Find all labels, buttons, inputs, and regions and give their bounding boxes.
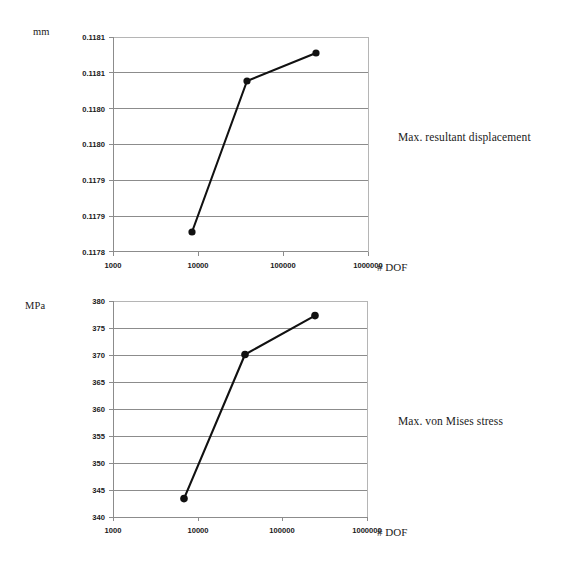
series-polyline [192, 53, 316, 232]
y-tick-label: 380 [92, 297, 105, 306]
x-tick-label: 100000 [270, 261, 295, 270]
x-tick-label: 100000 [269, 526, 294, 535]
y-tick-label: 345 [92, 486, 105, 495]
y-tickmarks-top [109, 37, 113, 252]
gridlines-top [113, 37, 368, 252]
series-max-von-mises-stress [180, 312, 319, 503]
plot-area-bottom: 380 375 370 365 360 355 350 345 340 1000… [0, 285, 577, 571]
chart-max-von-mises-stress: MPa [0, 285, 577, 571]
gridlines-bottom [113, 301, 367, 517]
y-tick-label: 375 [92, 324, 105, 333]
data-point [311, 312, 319, 320]
series-max-resultant-displacement [188, 49, 319, 235]
caption-max-resultant-displacement: Max. resultant displacement [398, 131, 531, 143]
x-tick-labels-top: 1000 10000 100000 1000000 [105, 261, 383, 270]
y-tickmarks-bottom [109, 301, 113, 517]
x-tick-label: 1000 [105, 261, 122, 270]
y-tick-label: 355 [92, 432, 105, 441]
data-point [180, 495, 188, 503]
x-tick-label: 10000 [187, 526, 208, 535]
x-axis-caption-bottom: # DOF [377, 526, 407, 538]
y-tick-label: 0.1179 [82, 176, 105, 185]
x-tick-label: 10000 [187, 261, 208, 270]
x-tickmarks-top [113, 252, 368, 256]
y-tick-label: 0.1181 [82, 69, 106, 78]
y-tick-labels-bottom: 380 375 370 365 360 355 350 345 340 [92, 297, 105, 522]
x-axis-caption-top: # DOF [377, 261, 407, 273]
series-polyline [184, 316, 315, 499]
caption-max-von-mises-stress: Max. von Mises stress [398, 415, 503, 427]
y-tick-label: 0.1180 [82, 105, 105, 114]
data-point [241, 351, 249, 359]
chart-max-resultant-displacement: mm [0, 0, 577, 285]
x-tick-labels-bottom: 1000 10000 100000 1000000 [105, 526, 382, 535]
x-tickmarks-bottom [113, 517, 367, 521]
y-tick-label: 340 [92, 513, 105, 522]
y-tick-label: 365 [92, 378, 105, 387]
data-point [188, 228, 195, 235]
y-tick-label: 0.1180 [82, 140, 105, 149]
y-tick-label: 0.1178 [82, 248, 105, 257]
y-tick-labels-top: 0.1181 0.1181 0.1180 0.1180 0.1179 0.117… [82, 33, 106, 257]
x-tick-label: 1000 [105, 526, 122, 535]
data-point [312, 49, 319, 56]
data-point [243, 77, 250, 84]
y-tick-label: 0.1179 [82, 212, 105, 221]
y-tick-label: 360 [92, 405, 105, 414]
y-tick-label: 0.1181 [82, 33, 106, 42]
y-tick-label: 350 [92, 459, 105, 468]
y-tick-label: 370 [92, 351, 105, 360]
convergence-figure: mm [0, 0, 577, 571]
